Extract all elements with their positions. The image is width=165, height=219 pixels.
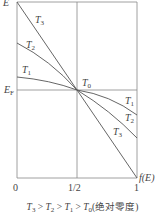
label-T1: T1 — [22, 65, 31, 77]
fermi-level-label: EF — [4, 85, 14, 97]
x-tick-0: 0 — [13, 183, 18, 193]
energy-axis-label: E — [3, 0, 9, 8]
fermi-function-axis-label: f(E) — [139, 173, 155, 183]
label-T2: T2 — [26, 40, 35, 52]
x-tick-half: 1/2 — [68, 183, 81, 193]
label-T3: T3 — [35, 15, 44, 27]
label-T3-right: T3 — [113, 127, 122, 139]
label-T1-right: T1 — [125, 96, 134, 108]
temperature-order-caption: T3 > T2 > T1 > T0(绝对零度) — [0, 203, 165, 214]
label-T2-right: T2 — [125, 113, 134, 125]
label-T0: T0 — [82, 78, 91, 90]
fermi-dirac-diagram — [0, 0, 165, 219]
x-tick-1: 1 — [134, 183, 139, 193]
